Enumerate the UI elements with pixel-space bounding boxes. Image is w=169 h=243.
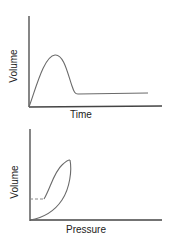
volume-time-diagram: Volume Time [8,16,162,120]
x-axis-label: Time [70,109,92,120]
y-axis-label: Volume [9,165,20,199]
x-axis-label: Pressure [66,224,106,235]
volume-time-curve [29,55,148,107]
y-axis-label: Volume [8,49,19,83]
deflation-limb [30,160,71,220]
x-axis [29,106,162,107]
diagram-canvas: Volume Time Volume Pressure [0,0,169,243]
pressure-volume-diagram: Volume Pressure [9,129,162,235]
